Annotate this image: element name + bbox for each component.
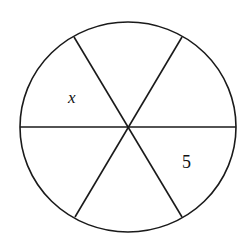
sector-label-5: 5 bbox=[182, 152, 191, 172]
sector-diagram: x 5 bbox=[0, 0, 244, 240]
sector-label-x: x bbox=[67, 88, 76, 107]
diagram-lines bbox=[20, 22, 236, 232]
